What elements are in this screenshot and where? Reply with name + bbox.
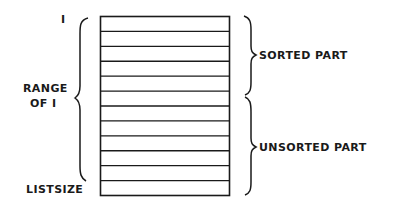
range-label-line1: RANGE (23, 83, 68, 94)
range-label-line2: OF I (30, 98, 56, 109)
unsorted-brace (245, 97, 256, 195)
sorted-brace (244, 16, 256, 95)
index-start-label: I (61, 14, 66, 25)
unsorted-part-label: UNSORTED PART (259, 142, 367, 153)
sorted-part-label: SORTED PART (259, 50, 348, 61)
range-brace (75, 18, 88, 181)
index-end-label: LISTSIZE (26, 184, 83, 195)
list-array (101, 17, 230, 196)
row-dividers (101, 31, 230, 180)
selection-sort-diagram (0, 0, 393, 210)
